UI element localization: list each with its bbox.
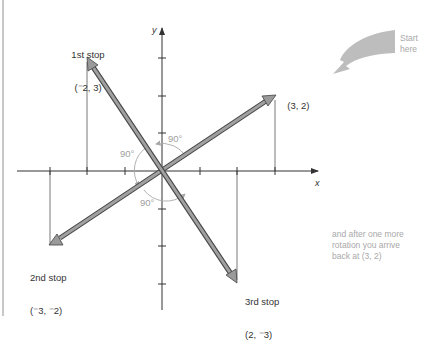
- angle-label-2: 90°: [120, 148, 134, 159]
- x-axis-label: x: [315, 178, 320, 188]
- start-here-note: Start here: [400, 33, 418, 55]
- point-label-first: 1st stop (⁻2, 3): [66, 27, 110, 104]
- point-label-second: 2nd stop (⁻3, ⁻2): [30, 250, 66, 327]
- start-here-arrow-icon: [333, 30, 395, 74]
- end-note: and after one more rotation you arrive b…: [332, 229, 404, 262]
- point-label-start: (3, 2): [282, 89, 309, 111]
- angle-label-3: 90°: [140, 197, 154, 208]
- point-label-third: 3rd stop (2, ⁻3): [245, 274, 279, 344]
- y-axis-label: y: [152, 25, 157, 35]
- angle-label-1: 90°: [168, 133, 182, 144]
